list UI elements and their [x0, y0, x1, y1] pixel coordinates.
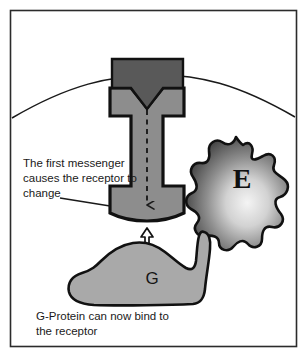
gprotein-caption-line-2: the receptor: [36, 325, 98, 337]
messenger-caption-line-1: The first messenger: [23, 157, 125, 169]
diagram-canvas: E G The first messenger causes the recep…: [0, 0, 306, 355]
messenger-caption-line-2: causes the receptor to: [23, 172, 137, 184]
diagram-svg: E G The first messenger causes the recep…: [0, 0, 306, 355]
gprotein-caption-line-1: G-Protein can now bind to: [36, 310, 169, 322]
messenger-caption-line-3: change: [23, 187, 61, 199]
g-protein-label: G: [145, 269, 158, 288]
enzyme-label: E: [233, 163, 252, 194]
